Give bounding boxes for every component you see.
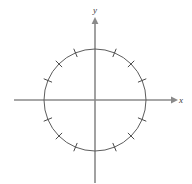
- y-axis-arrowhead: [92, 17, 99, 24]
- figure-canvas: x y: [0, 0, 192, 184]
- x-axis-arrowhead: [171, 97, 178, 104]
- y-axis-label: y: [92, 5, 97, 15]
- unit-circle-figure: x y: [0, 0, 192, 184]
- x-axis-label: x: [178, 95, 183, 105]
